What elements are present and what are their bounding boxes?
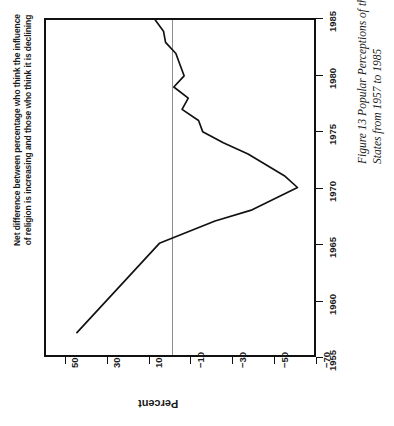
year-tick-label: 1965 bbox=[327, 237, 338, 258]
year-tick bbox=[316, 131, 323, 132]
figure-caption-line-2: States from 1957 to 1985 bbox=[370, 0, 385, 164]
percent-tick-label: 50 bbox=[69, 357, 80, 368]
percent-tick bbox=[274, 357, 275, 364]
year-tick bbox=[316, 18, 323, 19]
percent-axis: 503010−10−30−50−70 bbox=[44, 357, 316, 358]
chart-title-line-2: of religion is increasing and those who … bbox=[23, 0, 34, 270]
percent-tick-label: −30 bbox=[237, 352, 248, 368]
percent-tick-label: 10 bbox=[153, 357, 164, 368]
year-tick bbox=[316, 188, 323, 189]
year-tick bbox=[316, 357, 323, 358]
year-tick-label: 1975 bbox=[327, 124, 338, 145]
percent-tick-label: 30 bbox=[111, 357, 122, 368]
percent-tick-label: −50 bbox=[279, 352, 290, 368]
year-tick-label: 1970 bbox=[327, 180, 338, 201]
data-series-line bbox=[46, 20, 314, 355]
percent-tick bbox=[232, 357, 233, 364]
figure-caption: Figure 13 Popular Perceptions of the Inf… bbox=[355, 0, 385, 164]
year-tick-label: 1985 bbox=[327, 11, 338, 32]
percent-tick bbox=[149, 357, 150, 364]
year-tick bbox=[316, 75, 323, 76]
percent-axis-title: Percent bbox=[138, 398, 178, 410]
percent-tick bbox=[65, 357, 66, 364]
year-tick-label: 1955 bbox=[327, 350, 338, 371]
figure-caption-line-1: Figure 13 Popular Perceptions of the Inf… bbox=[355, 0, 370, 164]
year-tick bbox=[316, 301, 323, 302]
chart-title-line-1: Net difference between percentage who th… bbox=[12, 0, 23, 270]
year-tick-label: 1960 bbox=[327, 293, 338, 314]
year-tick-label: 1980 bbox=[327, 67, 338, 88]
percent-tick bbox=[316, 357, 317, 364]
percent-tick-label: −10 bbox=[195, 352, 206, 368]
plot-area bbox=[44, 18, 316, 357]
year-tick bbox=[316, 244, 323, 245]
year-axis: 1955196019651970197519801985 bbox=[316, 18, 317, 357]
percent-tick bbox=[190, 357, 191, 364]
figure-root: Net difference between percentage who th… bbox=[0, 0, 394, 426]
percent-tick bbox=[107, 357, 108, 364]
